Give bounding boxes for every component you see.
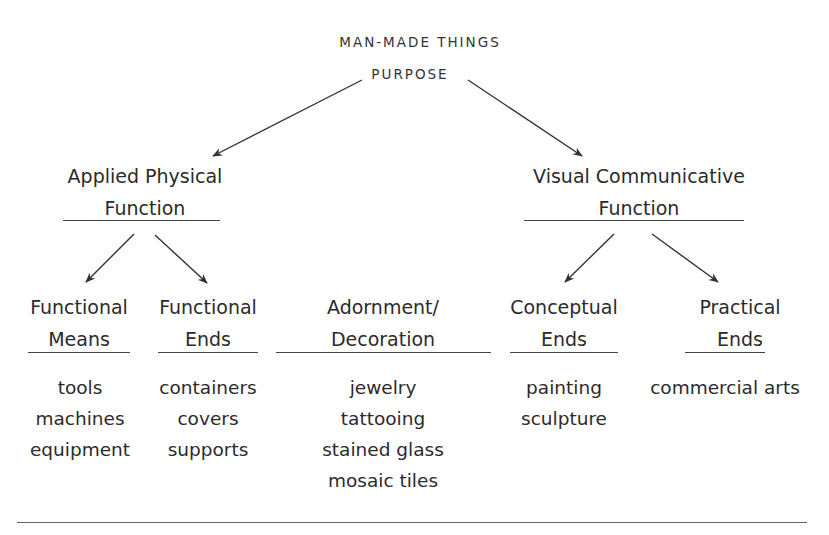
item-list-practical-ends: commercial arts	[640, 372, 810, 403]
subcategory-label-line2: Ends	[150, 323, 266, 355]
arrow-applied-to-ends	[155, 235, 207, 283]
subcategory-label-line2: Ends	[670, 323, 810, 355]
item-list-functional-ends: containers covers supports	[145, 372, 271, 465]
list-item: machines	[10, 403, 150, 434]
subcategory-label-line1: Functional	[20, 291, 138, 323]
subcategory-label-line1: Practical	[670, 291, 810, 323]
list-item: tools	[10, 372, 150, 403]
list-item: equipment	[10, 434, 150, 465]
list-item: mosaic tiles	[300, 465, 466, 496]
list-item: covers	[145, 403, 271, 434]
category-underline	[63, 220, 220, 221]
arrow-applied-to-means	[86, 234, 134, 282]
subcategory-underline	[28, 352, 130, 353]
item-list-conceptual-ends: painting sculpture	[504, 372, 624, 434]
subcategory-label-line1: Functional	[150, 291, 266, 323]
category-label-line2: Decoration	[276, 323, 490, 355]
list-item: jewelry	[300, 372, 466, 403]
bottom-divider	[17, 522, 807, 523]
category-label-line1: Applied Physical	[30, 160, 260, 192]
category-label-line1: Visual Communicative	[504, 160, 774, 192]
subcategory-underline	[510, 352, 618, 353]
category-underline	[524, 220, 744, 221]
list-item: containers	[145, 372, 271, 403]
category-applied-physical-function: Applied Physical Function	[30, 160, 260, 224]
list-item: commercial arts	[640, 372, 810, 403]
subcategory-conceptual-ends: Conceptual Ends	[504, 291, 624, 355]
subcategory-practical-ends: Practical Ends	[670, 291, 810, 355]
category-underline	[276, 352, 491, 353]
list-item: sculpture	[504, 403, 624, 434]
category-adornment-decoration: Adornment/ Decoration	[276, 291, 490, 355]
list-item: tattooing	[300, 403, 466, 434]
subcategory-label-line2: Ends	[504, 323, 624, 355]
arrow-purpose-to-applied	[213, 80, 362, 156]
list-item: stained glass	[300, 434, 466, 465]
item-list-adornment-decoration: jewelry tattooing stained glass mosaic t…	[300, 372, 466, 496]
item-list-functional-means: tools machines equipment	[10, 372, 150, 465]
list-item: painting	[504, 372, 624, 403]
list-item: supports	[145, 434, 271, 465]
subcategory-label-line1: Conceptual	[504, 291, 624, 323]
arrow-purpose-to-visual	[468, 80, 582, 156]
category-visual-communicative-function: Visual Communicative Function	[504, 160, 774, 224]
subcategory-underline	[158, 352, 258, 353]
subcategory-label-line2: Means	[20, 323, 138, 355]
subcategory-underline	[685, 352, 765, 353]
subcategory-functional-ends: Functional Ends	[150, 291, 266, 355]
subcategory-functional-means: Functional Means	[20, 291, 138, 355]
category-label-line1: Adornment/	[276, 291, 490, 323]
arrow-visual-to-practical	[652, 234, 718, 282]
diagram-title: MAN-MADE THINGS	[280, 34, 560, 50]
arrow-visual-to-conceptual	[565, 234, 614, 282]
diagram-subtitle: PURPOSE	[330, 66, 490, 82]
